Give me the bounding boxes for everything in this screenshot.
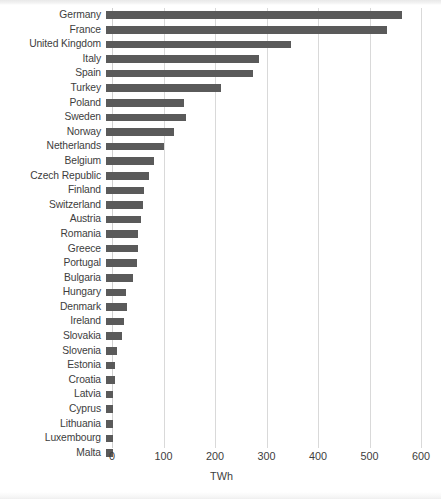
bar-row: Portugal	[0, 256, 441, 271]
bar-switzerland	[106, 201, 143, 209]
bar-row: Denmark	[0, 300, 441, 315]
category-label-ireland: Ireland	[0, 314, 101, 329]
bar-row: Sweden	[0, 110, 441, 125]
category-label-italy: Italy	[0, 52, 101, 67]
category-label-netherlands: Netherlands	[0, 139, 101, 154]
bar-netherlands	[106, 143, 164, 151]
category-label-spain: Spain	[0, 66, 101, 81]
bar-italy	[106, 55, 259, 63]
bar-austria	[106, 216, 141, 224]
bar-row: Turkey	[0, 81, 441, 96]
bar-row: Slovakia	[0, 329, 441, 344]
x-tick-label-400: 400	[298, 450, 338, 462]
category-label-romania: Romania	[0, 227, 101, 242]
category-label-poland: Poland	[0, 96, 101, 111]
bar-row: Ireland	[0, 314, 441, 329]
x-axis-ticks: 0100200300400500600	[0, 450, 441, 470]
category-label-finland: Finland	[0, 183, 101, 198]
category-label-belgium: Belgium	[0, 154, 101, 169]
x-tick-label-600: 600	[401, 450, 441, 462]
bar-row: Croatia	[0, 373, 441, 388]
bar-row: Finland	[0, 183, 441, 198]
category-label-denmark: Denmark	[0, 300, 101, 315]
bar-row: Switzerland	[0, 198, 441, 213]
bar-row: Estonia	[0, 358, 441, 373]
bar-row: Netherlands	[0, 139, 441, 154]
x-tick-label-0: 0	[92, 450, 132, 462]
bar-rows: GermanyFranceUnited KingdomItalySpainTur…	[0, 8, 441, 460]
x-tick-label-200: 200	[195, 450, 235, 462]
x-axis-title-text: TWh	[210, 470, 233, 482]
bar-czech-republic	[106, 172, 149, 180]
bar-latvia	[106, 391, 113, 399]
bar-row: Luxembourg	[0, 431, 441, 446]
x-tick-label-100: 100	[144, 450, 184, 462]
bar-row: Germany	[0, 8, 441, 23]
category-label-norway: Norway	[0, 125, 101, 140]
category-label-united-kingdom: United Kingdom	[0, 37, 101, 52]
category-label-bulgaria: Bulgaria	[0, 271, 101, 286]
bar-row: Cyprus	[0, 402, 441, 417]
bar-spain	[106, 70, 253, 78]
category-label-hungary: Hungary	[0, 285, 101, 300]
bar-row: Greece	[0, 242, 441, 257]
bar-hungary	[106, 289, 126, 297]
category-label-cyprus: Cyprus	[0, 402, 101, 417]
x-axis-title: TWh	[0, 470, 441, 482]
bar-estonia	[106, 362, 115, 370]
bar-row: Spain	[0, 66, 441, 81]
bar-row: Poland	[0, 96, 441, 111]
bar-luxembourg	[106, 435, 113, 443]
category-label-portugal: Portugal	[0, 256, 101, 271]
bar-row: Bulgaria	[0, 271, 441, 286]
bar-poland	[106, 99, 184, 107]
bar-row: Austria	[0, 212, 441, 227]
category-label-slovakia: Slovakia	[0, 329, 101, 344]
category-label-croatia: Croatia	[0, 373, 101, 388]
bar-france	[106, 26, 387, 34]
bar-denmark	[106, 303, 127, 311]
bar-chart: GermanyFranceUnited KingdomItalySpainTur…	[0, 0, 441, 499]
bar-row: Hungary	[0, 285, 441, 300]
bar-row: Czech Republic	[0, 169, 441, 184]
bar-row: Italy	[0, 52, 441, 67]
bar-greece	[106, 245, 138, 253]
bar-sweden	[106, 114, 186, 122]
category-label-luxembourg: Luxembourg	[0, 431, 101, 446]
bar-belgium	[106, 157, 154, 165]
bar-lithuania	[106, 420, 113, 428]
category-label-lithuania: Lithuania	[0, 417, 101, 432]
bar-ireland	[106, 318, 124, 326]
category-label-czech-republic: Czech Republic	[0, 169, 101, 184]
bar-portugal	[106, 259, 137, 267]
bar-row: Latvia	[0, 387, 441, 402]
bar-slovenia	[106, 347, 117, 355]
bar-turkey	[106, 84, 221, 92]
category-label-greece: Greece	[0, 242, 101, 257]
bar-norway	[106, 128, 174, 136]
category-label-sweden: Sweden	[0, 110, 101, 125]
category-label-austria: Austria	[0, 212, 101, 227]
plot-area: GermanyFranceUnited KingdomItalySpainTur…	[0, 0, 441, 499]
bar-bulgaria	[106, 274, 133, 282]
bar-romania	[106, 230, 138, 238]
bar-germany	[106, 11, 402, 19]
category-label-germany: Germany	[0, 8, 101, 23]
bar-slovakia	[106, 332, 122, 340]
category-label-slovenia: Slovenia	[0, 344, 101, 359]
bar-croatia	[106, 376, 115, 384]
bar-row: Lithuania	[0, 417, 441, 432]
category-label-latvia: Latvia	[0, 387, 101, 402]
bar-row: Romania	[0, 227, 441, 242]
bar-row: Norway	[0, 125, 441, 140]
bar-cyprus	[106, 405, 113, 413]
bar-row: Belgium	[0, 154, 441, 169]
category-label-turkey: Turkey	[0, 81, 101, 96]
x-tick-label-500: 500	[350, 450, 390, 462]
category-label-france: France	[0, 23, 101, 38]
bar-row: United Kingdom	[0, 37, 441, 52]
category-label-switzerland: Switzerland	[0, 198, 101, 213]
bar-row: Slovenia	[0, 344, 441, 359]
bar-row: France	[0, 23, 441, 38]
bar-finland	[106, 187, 144, 195]
